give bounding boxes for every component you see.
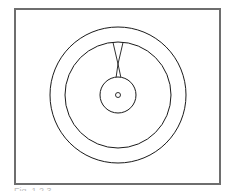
hourglass-neck-right: [118, 43, 123, 79]
hub-circle: [100, 77, 136, 113]
hourglass-neck-left: [113, 43, 118, 79]
figure-caption: Fig. 1.2.3: [14, 186, 52, 191]
concentric-circles-diagram: [0, 0, 225, 191]
